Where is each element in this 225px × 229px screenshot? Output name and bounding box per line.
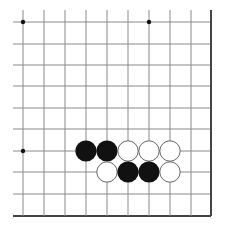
white-stone xyxy=(118,141,138,161)
board-grid xyxy=(13,10,211,216)
white-stone xyxy=(139,141,159,161)
go-board xyxy=(0,0,225,229)
star-point xyxy=(21,149,25,153)
black-stone xyxy=(96,140,117,161)
star-point xyxy=(21,20,25,24)
stones-layer xyxy=(75,140,180,182)
white-stone xyxy=(160,141,180,161)
white-stone xyxy=(97,162,117,182)
black-stone xyxy=(117,161,138,182)
star-point xyxy=(147,20,151,24)
black-stone xyxy=(138,161,159,182)
white-stone xyxy=(160,162,180,182)
black-stone xyxy=(75,140,96,161)
